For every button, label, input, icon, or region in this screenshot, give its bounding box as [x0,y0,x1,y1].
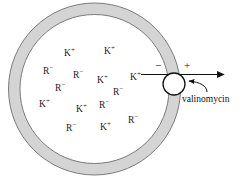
vesicle-figure: K+ K+ R− R− K+ K+ R− R− K+ K+ R− R− R− K… [0,0,244,195]
inside-negative-sign: − [155,60,161,71]
ion-label: K+ [104,47,115,57]
ion-label: R− [128,116,139,126]
ion-label: R− [55,84,66,94]
ion-label: R− [73,71,84,81]
ion-label: R− [66,124,77,134]
ion-label: K+ [64,49,75,59]
ion-label: K+ [100,123,111,133]
ion-label: R− [99,101,110,111]
ion-label: K+ [39,100,50,110]
ion-label: K+ [76,105,87,115]
membrane-inner-circle [20,15,169,164]
ion-label: K+ [97,76,108,86]
valinomycin-label: valinomycin [182,95,230,105]
carrier-circle [163,73,185,95]
membrane-ring [9,3,181,175]
ion-label: R− [113,88,124,98]
outside-positive-sign: + [184,60,190,71]
ion-label: R− [43,67,54,77]
ion-label-transported: K+ [130,73,141,83]
valinomycin-carrier [163,73,185,95]
valinomycin-callout-leader [189,81,207,92]
callout-curve [189,81,207,92]
